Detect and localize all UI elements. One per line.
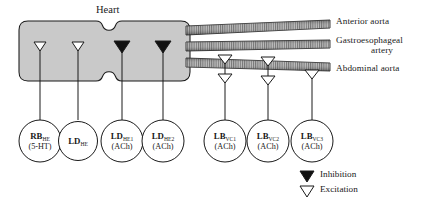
diagram-canvas: Heart Anterior aorta Gastroesophageal ar… [0,0,437,211]
syn-lb-vc1-lower-open-triangle [218,74,232,83]
neuron-label-lb-vc1: LBVC1 (ACh) [204,132,246,151]
neuron-rb-he-subscript: HE [42,136,49,142]
neuron-ld-he1-name: LD [111,131,123,141]
heart-title: Heart [96,4,119,15]
vessel-abdominal-aorta [186,58,330,71]
neuron-label-ld-he2: LDHE2 (ACh) [142,132,184,151]
neuron-ld-he2-name: LD [152,131,164,141]
neuron-lb-vc2-name: LB [257,131,269,141]
neuron-lb-vc2-transmitter: (ACh) [247,142,289,151]
legend-label-excitation: Excitation [320,185,358,195]
neuron-lb-vc3-name: LB [301,131,313,141]
neuron-lb-vc3-transmitter: (ACh) [291,142,333,151]
neuron-lb-vc1-name: LB [214,131,226,141]
vessel-anterior-aorta [186,20,330,35]
neuron-label-ld-he: LDHE [59,137,97,147]
legend-inhibition-filled-triangle [300,171,314,182]
vessel-gastroesophageal-artery [186,40,330,51]
vessel-label-gastroesophageal-artery-line2: artery [336,46,428,56]
vessel-label-abdominal-aorta: Abdominal aorta [336,64,400,74]
neuron-label-ld-he1: LDHE1 (ACh) [101,132,143,151]
legend-excitation-open-triangle [300,186,314,197]
syn-lb-vc3-open-triangle [305,70,319,79]
neuron-rb-he-name: RB [30,131,42,141]
neuron-ld-he-name: LD [68,136,80,146]
neuron-rb-he-transmitter: (5-HT) [19,142,61,151]
syn-lb-vc2-lower-open-triangle [261,76,275,85]
neuron-lb-vc1-transmitter: (ACh) [204,142,246,151]
neuron-ld-he-subscript: HE [80,141,87,147]
neuron-ld-he2-subscript: HE2 [164,136,174,142]
neuron-label-rb-he: RBHE (5-HT) [19,132,61,151]
neuron-lb-vc1-subscript: VC1 [226,136,237,142]
diagram-graphics [0,0,437,211]
neuron-lb-vc3-subscript: VC3 [313,136,324,142]
neuron-label-lb-vc3: LBVC3 (ACh) [291,132,333,151]
vessel-label-anterior-aorta: Anterior aorta [336,17,389,27]
legend-symbols [300,171,314,197]
neuron-ld-he1-transmitter: (ACh) [101,142,143,151]
legend-label-inhibition: Inhibition [320,170,356,180]
neuron-label-lb-vc2: LBVC2 (ACh) [247,132,289,151]
neuron-ld-he2-transmitter: (ACh) [142,142,184,151]
neuron-ld-he1-subscript: HE1 [123,136,133,142]
neuron-lb-vc2-subscript: VC2 [269,136,280,142]
